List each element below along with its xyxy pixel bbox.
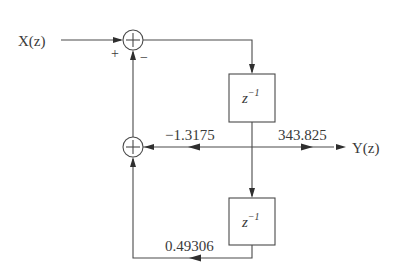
gain-feedback-2-label: 0.49306 [165, 238, 214, 254]
gain-arrow-icon [189, 255, 201, 262]
input-label: X(z) [18, 33, 45, 50]
output-label: Y(z) [352, 140, 379, 157]
arrowhead-icon [130, 157, 136, 167]
plus-sign-label: + [111, 46, 119, 61]
minus-sign-label: − [140, 50, 148, 65]
delay-1-block: z−1 [229, 74, 275, 122]
gain-feedback-1-label: −1.3175 [165, 127, 215, 143]
arrowhead-icon [336, 144, 346, 150]
delay-box [229, 74, 275, 122]
arrowhead-icon [249, 188, 255, 198]
adder-top [123, 30, 143, 50]
arrowhead-icon [113, 37, 123, 43]
block-diagram: X(z) + − z−1 z−1 −1.3175 343.825 Y(z) [0, 0, 410, 276]
gain-forward-label: 343.825 [278, 127, 327, 143]
gain-arrow-icon [188, 144, 200, 151]
delay-2-block: z−1 [229, 198, 275, 245]
arrowhead-icon [130, 50, 136, 60]
arrowhead-icon [249, 64, 255, 74]
gain-arrow-icon [301, 144, 313, 151]
adder-bottom [123, 137, 143, 157]
arrowhead-icon [144, 144, 154, 150]
adder-to-delay1-line [143, 40, 252, 72]
